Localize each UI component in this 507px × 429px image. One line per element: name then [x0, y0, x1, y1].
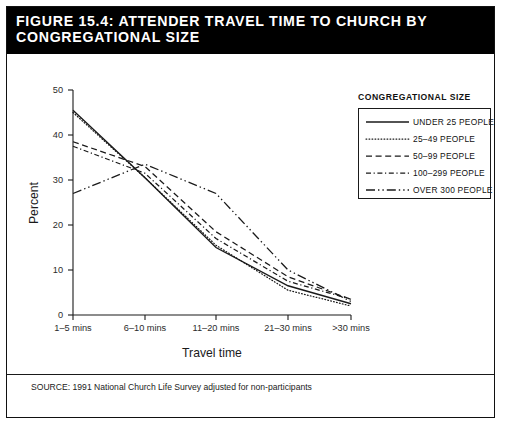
source-text: SOURCE: 1991 National Church Life Survey… [7, 382, 494, 392]
line-chart-svg: 0 10 20 30 40 50 Percent 1–5 mins 6–10 m… [0, 0, 507, 429]
y-axis-title: Percent [27, 181, 41, 224]
x-tick-label: 6–10 mins [124, 323, 167, 333]
series-line-under-25-people [73, 110, 351, 304]
legend-item-100-299-people: 100–299 PEOPLE [365, 164, 486, 181]
x-tick-labels: 1–5 mins 6–10 mins 11–20 mins 21–30 mins… [54, 323, 370, 333]
legend-label: UNDER 25 PEOPLE [410, 117, 494, 127]
y-tick-label: 50 [53, 85, 63, 95]
legend-title: CONGREGATIONAL SIZE [358, 92, 471, 102]
series-line-50-99-people [73, 142, 351, 300]
legend-item-25-49-people: 25–49 PEOPLE [365, 130, 486, 147]
legend-label: 25–49 PEOPLE [410, 134, 475, 144]
x-tick-label: 21–30 mins [264, 323, 312, 333]
legend-item-under-25-people: UNDER 25 PEOPLE [365, 113, 486, 130]
legend-item-50-99-people: 50–99 PEOPLE [365, 147, 486, 164]
x-axis-title: Travel time [182, 346, 242, 360]
legend-item-over-300-people: OVER 300 PEOPLE [365, 181, 486, 198]
x-tick-label: 11–20 mins [193, 323, 240, 333]
legend-swatch-long-dash-dot [365, 184, 410, 196]
legend-label: OVER 300 PEOPLE [410, 185, 493, 195]
legend-box: UNDER 25 PEOPLE 25–49 PEOPLE 50–99 PEOPL… [358, 108, 491, 199]
x-tick-label: 1–5 mins [54, 323, 92, 333]
y-tick-labels: 0 10 20 30 40 50 [53, 85, 63, 320]
y-tick-label: 20 [53, 220, 63, 230]
figure-container: FIGURE 15.4: ATTENDER TRAVEL TIME TO CHU… [0, 0, 507, 429]
legend-label: 50–99 PEOPLE [410, 151, 475, 161]
source-note: SOURCE: 1991 National Church Life Survey… [7, 374, 494, 392]
plot-area: 0 10 20 30 40 50 Percent 1–5 mins 6–10 m… [0, 0, 507, 429]
series-group [73, 110, 351, 306]
legend-swatch-dashed [365, 150, 410, 162]
y-tick-label: 40 [53, 130, 63, 140]
x-tick-label: >30 mins [332, 323, 370, 333]
y-tick-label: 0 [58, 310, 63, 320]
legend-label: 100–299 PEOPLE [410, 168, 485, 178]
y-tick-marks [68, 90, 73, 315]
series-line-25-49-people [73, 113, 351, 307]
series-line-100-299-people [73, 146, 351, 299]
legend-swatch-solid [365, 116, 410, 128]
y-tick-label: 10 [53, 265, 63, 275]
x-tick-marks [73, 315, 351, 320]
legend-swatch-dotted [365, 133, 410, 145]
legend-swatch-dash-dot-short [365, 167, 410, 179]
y-tick-label: 30 [53, 175, 63, 185]
series-line-over-300-people [73, 164, 351, 301]
